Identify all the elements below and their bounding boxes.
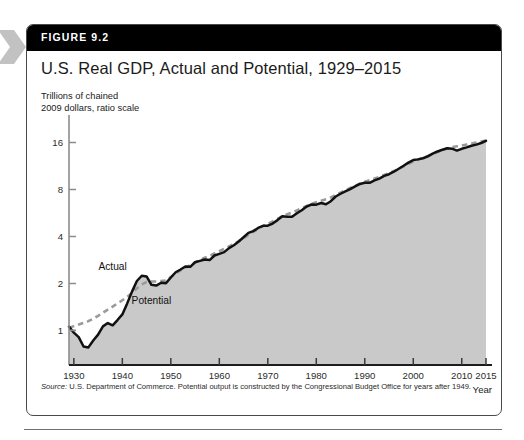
figure-page: FIGURE 9.2 U.S. Real GDP, Actual and Pot… bbox=[0, 0, 524, 440]
x-tick-label: 1970 bbox=[257, 370, 278, 381]
x-tick-label: 2015 bbox=[475, 370, 496, 381]
x-tick-label: 2000 bbox=[403, 370, 424, 381]
x-tick-label: 1960 bbox=[209, 370, 230, 381]
x-tick-label: 1950 bbox=[160, 370, 181, 381]
x-tick-label: 1980 bbox=[306, 370, 327, 381]
series-annotation-potential: Potential bbox=[132, 295, 172, 306]
y-tick-label: 16 bbox=[52, 137, 63, 148]
source-prefix: Source: bbox=[41, 382, 67, 391]
x-tick-label: 1990 bbox=[354, 370, 375, 381]
x-tick-label: 2010 bbox=[451, 370, 472, 381]
y-tick-label: 1 bbox=[58, 325, 63, 336]
y-tick-label: 4 bbox=[58, 231, 64, 242]
left-chevron-icon bbox=[0, 28, 28, 66]
y-tick-label: 2 bbox=[58, 278, 63, 289]
chart-plot-area: 1248161930194019501960197019801990200020… bbox=[27, 25, 502, 416]
actual-area-fill bbox=[69, 141, 486, 365]
source-text: U.S. Department of Commerce. Potential o… bbox=[67, 382, 471, 391]
figure-box: FIGURE 9.2 U.S. Real GDP, Actual and Pot… bbox=[26, 24, 502, 416]
series-annotation-actual: Actual bbox=[98, 261, 126, 272]
gdp-line-chart: 1248161930194019501960197019801990200020… bbox=[27, 25, 502, 416]
bottom-divider bbox=[24, 429, 502, 430]
y-tick-label: 8 bbox=[58, 184, 63, 195]
x-tick-label: 1940 bbox=[112, 370, 133, 381]
x-tick-label: 1930 bbox=[63, 370, 84, 381]
source-note: Source: U.S. Department of Commerce. Pot… bbox=[41, 382, 489, 392]
